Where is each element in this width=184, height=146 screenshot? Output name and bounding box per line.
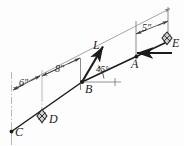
dimension-label-6in: 6" [19, 78, 28, 88]
pin-support-marker-D [37, 110, 47, 123]
engineering-beam-diagram: C D B A E L 6" 8" 5" 45° [0, 0, 184, 146]
node-dot-B [80, 80, 84, 84]
point-label-E: E [172, 37, 179, 49]
angle-label-45deg: 45° [96, 65, 109, 74]
dimension-line-5in [136, 21, 168, 34]
dimension-label-5in: 5" [142, 23, 151, 33]
point-label-D: D [49, 113, 58, 125]
dimension-label-L: L [93, 39, 100, 51]
node-dot-C [10, 130, 14, 134]
point-label-A: A [131, 58, 138, 70]
point-label-B: B [85, 83, 92, 95]
dimension-label-8in: 8" [55, 64, 64, 74]
diagram-canvas [0, 0, 184, 146]
pin-support-marker-E [162, 32, 172, 45]
point-label-C: C [15, 126, 23, 138]
